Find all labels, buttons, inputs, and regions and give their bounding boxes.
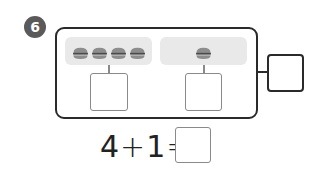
problem-number-badge: 6 — [24, 16, 46, 38]
equation-operand-b: 1 — [146, 129, 165, 164]
burger-icon — [110, 45, 127, 58]
right-count-answer-box[interactable] — [185, 73, 222, 111]
equation-answer-box[interactable] — [175, 127, 211, 163]
burger-icon — [129, 45, 146, 58]
burger-icon — [195, 45, 212, 58]
left-count-answer-box[interactable] — [90, 73, 128, 111]
equation-operator: + — [120, 129, 145, 164]
left-item-group — [65, 37, 152, 65]
burger-icon — [91, 45, 108, 58]
right-item-group — [160, 37, 247, 65]
equation-operand-a: 4 — [100, 129, 119, 164]
total-answer-box[interactable] — [267, 54, 304, 92]
burger-icon — [72, 45, 89, 58]
left-connector — [108, 65, 110, 73]
right-connector — [203, 65, 205, 73]
